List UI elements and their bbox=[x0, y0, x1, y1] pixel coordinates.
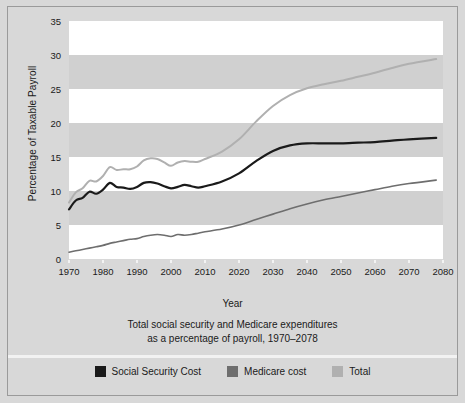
y-tick-label: 10 bbox=[50, 186, 61, 197]
x-axis-title: Year bbox=[0, 298, 465, 309]
y-tick-label: 15 bbox=[50, 152, 61, 163]
x-tick-label: 2050 bbox=[330, 266, 351, 277]
plot-band bbox=[69, 55, 443, 89]
plot-bands bbox=[69, 21, 443, 259]
x-tick-label: 1970 bbox=[58, 266, 79, 277]
legend-item-label: Total bbox=[349, 366, 370, 377]
x-tick-marks bbox=[69, 260, 443, 263]
legend-item: Medicare cost bbox=[227, 366, 306, 377]
plot-band bbox=[69, 123, 443, 157]
x-tick-label: 2030 bbox=[262, 266, 283, 277]
y-tick-label: 35 bbox=[50, 16, 61, 27]
chart-caption: Total social security and Medicare expen… bbox=[0, 318, 465, 346]
plot-band bbox=[69, 225, 443, 259]
caption-line-2: as a percentage of payroll, 1970–2078 bbox=[0, 332, 465, 346]
plot-band bbox=[69, 21, 443, 55]
x-tick-label: 1980 bbox=[92, 266, 113, 277]
legend-swatch-icon bbox=[332, 366, 343, 377]
chart-figure: 05101520253035 1970198019902000201020202… bbox=[0, 0, 465, 403]
x-tick-label: 2060 bbox=[364, 266, 385, 277]
y-tick-label: 20 bbox=[50, 118, 61, 129]
legend-item: Social Security Cost bbox=[95, 366, 201, 377]
y-axis-title: Percentage of Taxable Payroll bbox=[27, 54, 38, 214]
x-tick-label: 2040 bbox=[296, 266, 317, 277]
legend-item-label: Medicare cost bbox=[244, 366, 306, 377]
legend-item-label: Social Security Cost bbox=[112, 366, 201, 377]
x-tick-labels: 1970198019902000201020202030204020502060… bbox=[58, 266, 453, 277]
chart-legend: Social Security CostMedicare costTotal bbox=[0, 366, 465, 377]
y-tick-labels: 05101520253035 bbox=[50, 16, 61, 265]
caption-line-1: Total social security and Medicare expen… bbox=[0, 318, 465, 332]
x-tick-label: 2080 bbox=[432, 266, 453, 277]
x-tick-label: 2010 bbox=[194, 266, 215, 277]
legend-separator bbox=[8, 355, 457, 358]
y-tick-label: 30 bbox=[50, 50, 61, 61]
plot-band bbox=[69, 89, 443, 123]
legend-item: Total bbox=[332, 366, 370, 377]
x-tick-label: 2070 bbox=[398, 266, 419, 277]
legend-swatch-icon bbox=[227, 366, 238, 377]
y-tick-label: 25 bbox=[50, 84, 61, 95]
y-tick-label: 0 bbox=[56, 254, 61, 265]
x-tick-label: 1990 bbox=[126, 266, 147, 277]
y-tick-label: 5 bbox=[56, 220, 61, 231]
x-tick-label: 2000 bbox=[160, 266, 181, 277]
legend-swatch-icon bbox=[95, 366, 106, 377]
x-tick-label: 2020 bbox=[228, 266, 249, 277]
